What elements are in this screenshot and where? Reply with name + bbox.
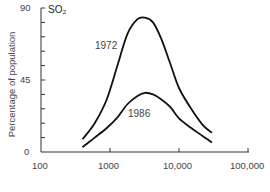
y-tick-0: 0 xyxy=(24,146,29,157)
series-1972-line xyxy=(83,17,212,139)
y-axis-label: Percentage of population xyxy=(6,25,17,145)
series-label-1972: 1972 xyxy=(95,40,117,51)
y-tick-90: 90 xyxy=(20,2,31,13)
chart-title-so2: SO₂ xyxy=(48,4,66,15)
x-tick-10000: 10,000 xyxy=(163,160,192,171)
y-tick-45: 45 xyxy=(20,74,31,85)
x-tick-1000: 1000 xyxy=(98,160,119,171)
series-label-1986: 1986 xyxy=(128,108,150,119)
x-tick-100000: 100,000 xyxy=(230,160,264,171)
y-ticks xyxy=(41,8,45,138)
x-tick-100: 100 xyxy=(32,160,48,171)
x-ticks xyxy=(110,148,248,152)
series-1986-line xyxy=(83,93,212,147)
